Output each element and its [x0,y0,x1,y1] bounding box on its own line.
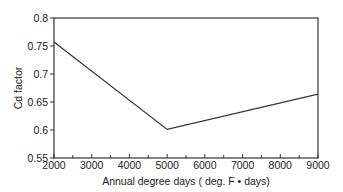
x-tick-label: 8000 [269,159,293,171]
y-tick-label: 0.75 [28,40,49,52]
x-tick-label: 7000 [231,159,255,171]
x-tick-label: 6000 [193,159,217,171]
x-tick-label: 5000 [155,159,179,171]
chart: 200030004000500060007000800090000.550.60… [0,0,343,192]
data-line [54,42,318,129]
y-tick-label: 0.6 [33,124,48,136]
y-axis-label: Cd factor [12,66,24,109]
plot-area: 200030004000500060007000800090000.550.60… [28,12,330,172]
y-tick-label: 0.65 [28,96,49,108]
y-tick-label: 0.55 [28,152,49,164]
x-tick-label: 4000 [118,159,142,171]
y-tick-label: 0.8 [33,12,48,24]
x-axis-label: Annual degree days ( deg. F • days) [102,175,270,187]
x-tick-label: 9000 [306,159,330,171]
y-tick-label: 0.7 [33,68,48,80]
plot-frame [54,18,318,158]
x-tick-label: 3000 [80,159,104,171]
